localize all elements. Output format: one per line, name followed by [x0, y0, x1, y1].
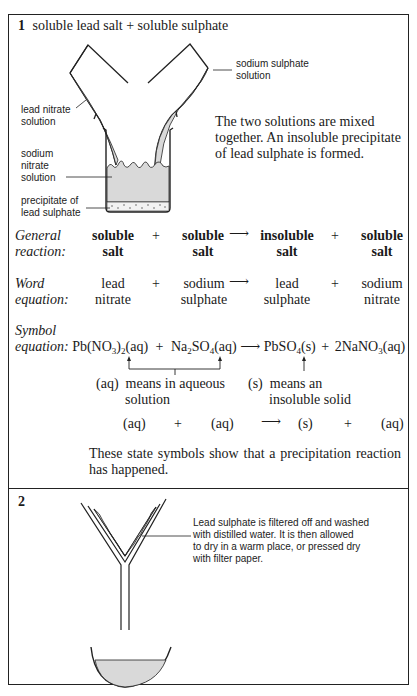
- section-divider: [8, 488, 409, 489]
- label-line: solution: [21, 116, 70, 128]
- term-line: sodium: [357, 276, 407, 292]
- note-aqueous: (aq) means in aqueous solution: [96, 376, 225, 408]
- label-line: solution: [21, 172, 55, 184]
- term-line: nitrate: [357, 292, 407, 308]
- state-symbol: (s): [301, 339, 316, 354]
- plus-sign: +: [174, 416, 182, 432]
- text-line: of lead sulphate is formed.: [215, 146, 407, 162]
- label-line: lead sulphate: [21, 207, 81, 219]
- plus-sign: +: [156, 339, 164, 354]
- term-line: salt: [88, 244, 138, 260]
- term-line: lead: [88, 276, 138, 292]
- label-line: sodium sulphate: [236, 58, 309, 70]
- label-sodium-nitrate-solution: sodium nitrate solution: [21, 148, 55, 184]
- term-line: soluble: [178, 228, 228, 244]
- label-line: General: [15, 228, 66, 244]
- plus-sign: +: [331, 228, 339, 244]
- text-line: with distilled water. It is then allowed: [193, 529, 369, 541]
- term-line: sodium: [176, 276, 232, 292]
- note-line: solution: [96, 392, 225, 408]
- term-line: soluble: [88, 228, 138, 244]
- word-term: sodium nitrate: [357, 276, 407, 308]
- text-line: Lead sulphate is filtered off and washed: [193, 517, 369, 529]
- note-line: (aq) means in aqueous: [96, 376, 225, 392]
- note-solid: (s) means an insoluble solid: [248, 376, 351, 408]
- general-reaction-label: General reaction:: [15, 228, 66, 260]
- formula-part: 2NaNO: [335, 339, 379, 354]
- reaction-term: insoluble salt: [257, 228, 317, 260]
- label-line: reaction:: [15, 244, 66, 260]
- state-symbol: (aq): [126, 339, 149, 354]
- arrow-icon: ⟶: [261, 414, 281, 430]
- text-line: The two solutions are mixed: [215, 114, 407, 130]
- formula-part: Pb(NO: [72, 339, 112, 354]
- reaction-term: soluble salt: [178, 228, 228, 260]
- label-lead-nitrate-solution: lead nitrate solution: [21, 104, 70, 128]
- word-equation-label: Word equation:: [15, 276, 69, 308]
- state-symbol: (aq): [214, 339, 237, 354]
- label-line: precipitate of: [21, 195, 81, 207]
- label-sodium-sulphate-solution: sodium sulphate solution: [236, 58, 309, 82]
- filtration-description: Lead sulphate is filtered off and washed…: [193, 517, 369, 565]
- label-line: solution: [236, 70, 309, 82]
- term-line: lead: [257, 276, 317, 292]
- plus-sign: +: [152, 228, 160, 244]
- label-line: lead nitrate: [21, 104, 70, 116]
- symbol-equation-line: equation: Pb(NO3)2(aq) + Na2SO4(aq) ⟶ Pb…: [15, 339, 405, 355]
- word-term: sodium sulphate: [176, 276, 232, 308]
- arrow-icon: ⟶: [229, 274, 249, 290]
- arrow-icon: ⟶: [229, 226, 249, 242]
- label-line: nitrate: [21, 160, 55, 172]
- text-line: These state symbols show that a precipit…: [89, 446, 401, 462]
- product-sodium-nitrate: 2NaNO3(aq): [335, 339, 406, 354]
- plus-sign: +: [152, 276, 160, 292]
- symbol-equation-label-2: equation:: [15, 339, 69, 354]
- term-line: sulphate: [257, 292, 317, 308]
- reactant-lead-nitrate: Pb(NO3)2(aq): [72, 339, 148, 354]
- product-lead-sulphate: PbSO4(s): [264, 339, 316, 354]
- term-line: salt: [178, 244, 228, 260]
- text-line: has happened.: [89, 462, 401, 478]
- term-line: insoluble: [257, 228, 317, 244]
- label-line: Word: [15, 276, 69, 292]
- plus-sign: +: [331, 276, 339, 292]
- term-line: nitrate: [88, 292, 138, 308]
- label-line: sodium: [21, 148, 55, 160]
- formula-part: Na: [171, 339, 187, 354]
- text-line: together. An insoluble precipitate: [215, 130, 407, 146]
- term-line: sulphate: [176, 292, 232, 308]
- formula-part: PbSO: [264, 339, 297, 354]
- formula-part: SO: [192, 339, 210, 354]
- symbol-equation-label-1: Symbol: [15, 323, 56, 339]
- note-line: insoluble solid: [248, 392, 351, 408]
- mixing-description: The two solutions are mixed together. An…: [215, 114, 407, 162]
- state-symbol: (aq): [381, 416, 404, 432]
- arrow-icon: ⟶: [240, 339, 260, 354]
- term-line: salt: [257, 244, 317, 260]
- term-line: salt: [357, 244, 407, 260]
- reaction-term: soluble salt: [88, 228, 138, 260]
- label-line: equation:: [15, 292, 69, 308]
- note-line: (s) means an: [248, 376, 351, 392]
- term-line: soluble: [357, 228, 407, 244]
- state-symbol: (aq): [383, 339, 406, 354]
- plus-sign: +: [321, 339, 329, 354]
- state-symbol: (s): [298, 416, 313, 432]
- plus-sign: +: [344, 416, 352, 432]
- label-precipitate: precipitate of lead sulphate: [21, 195, 81, 219]
- text-line: with filter paper.: [193, 553, 369, 565]
- state-symbol: (aq): [123, 416, 146, 432]
- reaction-term: soluble salt: [357, 228, 407, 260]
- state-symbol: (aq): [211, 416, 234, 432]
- state-symbols-note: These state symbols show that a precipit…: [89, 446, 401, 478]
- word-term: lead nitrate: [88, 276, 138, 308]
- reactant-sodium-sulphate: Na2SO4(aq): [171, 339, 237, 354]
- word-term: lead sulphate: [257, 276, 317, 308]
- text-line: to dry in a warm place, or pressed dry: [193, 541, 369, 553]
